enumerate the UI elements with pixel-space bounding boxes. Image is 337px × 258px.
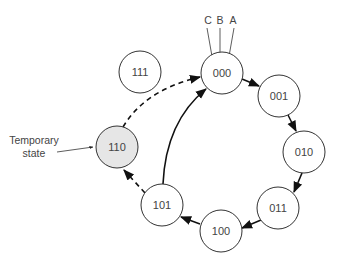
- node-001: 001: [258, 75, 300, 117]
- edge-100-101: [181, 217, 200, 224]
- node-label-101: 101: [153, 199, 171, 211]
- node-label-001: 001: [270, 90, 288, 102]
- node-010: 010: [283, 131, 325, 173]
- edge-000-001: [242, 79, 259, 86]
- node-101: 101: [141, 184, 183, 226]
- node-label-110: 110: [108, 141, 126, 153]
- node-label-011: 011: [269, 202, 287, 214]
- edge-101-000: [163, 89, 206, 184]
- edge-101-110: [124, 170, 145, 193]
- node-111: 111: [119, 51, 161, 93]
- node-110-temporary: 110: [96, 126, 138, 168]
- node-label-000: 000: [213, 67, 231, 79]
- temporary-state-annotation: Temporary state: [9, 134, 93, 159]
- node-label-010: 010: [295, 146, 313, 158]
- annotation-arrow: [57, 147, 93, 152]
- annotation-line1: Temporary: [9, 134, 59, 146]
- edge-001-010: [288, 115, 296, 131]
- input-label-c: C: [204, 14, 212, 26]
- node-011: 011: [257, 187, 299, 229]
- input-label-b: B: [216, 14, 223, 26]
- node-label-100: 100: [212, 225, 230, 237]
- input-label-a: A: [229, 14, 236, 26]
- annotation-line2: state: [23, 147, 46, 159]
- node-000: 000: [201, 52, 243, 94]
- edge-010-011: [294, 173, 302, 192]
- state-diagram: C B A 000 001 010 011 100 101: [0, 0, 337, 258]
- edge-011-100: [242, 220, 261, 228]
- node-label-111: 111: [132, 66, 149, 78]
- node-100: 100: [200, 210, 242, 252]
